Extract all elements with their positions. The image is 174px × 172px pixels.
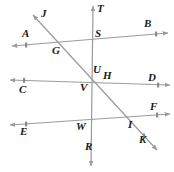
line-ef bbox=[10, 114, 170, 125]
point-label-r: R bbox=[85, 141, 92, 152]
tick-f bbox=[156, 113, 158, 118]
point-label-b: B bbox=[144, 18, 151, 29]
tick-a bbox=[25, 43, 27, 48]
tick-d bbox=[157, 83, 159, 88]
point-label-a: A bbox=[22, 28, 29, 39]
point-label-h: H bbox=[103, 70, 112, 81]
point-label-c: C bbox=[19, 84, 26, 95]
point-label-d: D bbox=[148, 72, 156, 83]
point-label-s: S bbox=[95, 28, 101, 39]
point-label-t: T bbox=[97, 3, 104, 14]
geometry-figure: J T B A S G U H D C V F E W I K R bbox=[0, 0, 174, 172]
point-label-e: E bbox=[20, 126, 27, 137]
tick-b bbox=[155, 32, 157, 37]
point-label-w: W bbox=[76, 121, 86, 132]
point-label-v: V bbox=[80, 82, 87, 93]
point-label-i: I bbox=[128, 119, 132, 130]
line-cd bbox=[10, 80, 170, 85]
point-label-k: K bbox=[139, 134, 146, 145]
point-label-g: G bbox=[52, 45, 60, 56]
point-label-f: F bbox=[150, 101, 157, 112]
line-ab bbox=[12, 33, 168, 46]
point-label-j: J bbox=[41, 8, 47, 19]
point-label-u: U bbox=[93, 64, 101, 75]
